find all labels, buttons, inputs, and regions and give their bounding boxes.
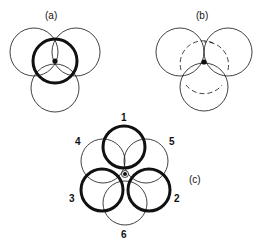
panel-c: 1 2 3 4 5 6 (c) — [69, 112, 201, 240]
thin-circle — [156, 28, 204, 76]
circle-label-2: 2 — [174, 193, 180, 204]
dashed-arc — [204, 42, 229, 70]
panel-a: (a) — [10, 10, 100, 112]
center-dot — [52, 58, 57, 63]
thin-circle — [31, 64, 79, 112]
center-dot — [123, 172, 127, 176]
circle-label-5: 5 — [169, 136, 175, 147]
circle-label-4: 4 — [75, 136, 81, 147]
thin-circle — [180, 63, 228, 111]
circle-label-3: 3 — [69, 193, 75, 204]
thick-circle-2 — [128, 169, 170, 211]
dashed-arc — [186, 85, 222, 94]
panel-c-label: (c) — [189, 174, 201, 185]
circle-diagram: (a) (b) 1 2 3 4 5 6 (c) — [0, 0, 259, 243]
circle-label-1: 1 — [121, 112, 127, 123]
thin-circle-6 — [103, 181, 147, 225]
panel-b-label: (b) — [196, 10, 208, 21]
panel-b: (b) — [156, 10, 252, 111]
thick-circle-3 — [81, 169, 123, 211]
panel-a-label: (a) — [45, 10, 57, 21]
center-dot — [201, 59, 206, 64]
circle-label-6: 6 — [121, 229, 127, 240]
